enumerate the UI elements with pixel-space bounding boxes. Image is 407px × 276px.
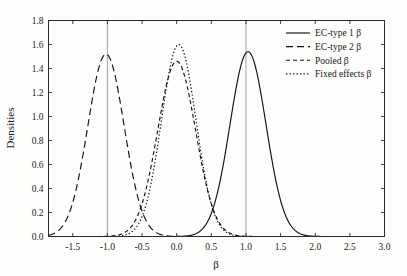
x-tick-label-2: -0.5	[135, 242, 150, 252]
x-tick-label-4: 0.5	[205, 242, 217, 252]
x-tick-label-0: -1.5	[65, 242, 80, 252]
legend-label-2: EC-type 2 β	[315, 42, 361, 52]
x-tick-label-5: 1.0	[240, 242, 252, 252]
chart-legend: EC-type 1 βEC-type 2 βPooled βFixed effe…	[286, 28, 372, 79]
plot-frame	[49, 21, 385, 237]
x-tick-label-8: 2.5	[344, 242, 356, 252]
x-tick-label-1: -1.0	[100, 242, 115, 252]
density-curve-1	[49, 52, 385, 237]
y-tick-label-2: 0.4	[32, 184, 44, 194]
y-tick-label-5: 1.0	[32, 112, 44, 122]
density-chart-figure: -1.5-1.0-0.50.00.51.01.52.02.53.0 0.00.2…	[0, 0, 407, 276]
y-tick-label-6: 1.2	[32, 88, 44, 98]
y-tick-label-0: 0.0	[32, 232, 44, 242]
x-axis-title: β	[213, 258, 219, 270]
y-tick-label-1: 0.2	[32, 208, 44, 218]
plot-canvas: -1.5-1.0-0.50.00.51.01.52.02.53.0 0.00.2…	[0, 0, 407, 276]
x-tick-label-7: 2.0	[309, 242, 321, 252]
legend-label-3: Pooled β	[315, 56, 349, 66]
density-curve-3	[49, 61, 385, 236]
reference-lines-group	[107, 21, 246, 237]
y-axis-title: Densities	[4, 108, 16, 149]
y-tick-label-3: 0.6	[32, 160, 44, 170]
x-tick-label-9: 3.0	[379, 242, 391, 252]
y-tick-label-9: 1.8	[32, 16, 44, 26]
legend-label-4: Fixed effects β	[315, 69, 372, 79]
y-tick-label-4: 0.8	[32, 136, 44, 146]
x-tick-label-6: 1.5	[275, 242, 287, 252]
density-curve-2	[49, 54, 385, 236]
y-tick-label-7: 1.4	[32, 64, 44, 74]
legend-label-1: EC-type 1 β	[315, 28, 361, 38]
x-tick-label-3: 0.0	[171, 242, 183, 252]
y-tick-label-8: 1.6	[32, 40, 44, 50]
